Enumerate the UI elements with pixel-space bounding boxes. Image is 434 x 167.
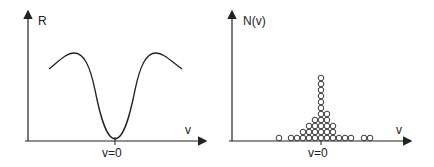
histogram-circle [330,129,336,135]
figure: R v v=0 N(v) v v=0 [0,0,434,167]
histogram-circle [318,111,324,117]
histogram-circle [288,135,294,141]
left-origin-label: v=0 [102,146,122,160]
histogram-circle [324,135,330,141]
histogram-circles [276,75,373,141]
histogram-circle [330,135,336,141]
right-y-label: N(v) [243,14,266,28]
histogram-circle [361,135,367,141]
histogram-circle [324,129,330,135]
histogram-circle [318,99,324,105]
histogram-circle [324,123,330,129]
histogram-circle [306,135,312,141]
histogram-circle [312,135,318,141]
histogram-circle [300,129,306,135]
right-x-label: v [396,123,402,137]
histogram-circle [342,135,348,141]
left-curve [49,53,182,139]
histogram-circle [318,93,324,99]
histogram-circle [312,117,318,123]
histogram-circle [294,135,300,141]
right-origin-label: v=0 [308,146,328,160]
histogram-circle [318,105,324,111]
right-plot: N(v) v v=0 [229,12,410,160]
histogram-circle [276,135,282,141]
histogram-circle [324,111,330,117]
histogram-circle [336,135,342,141]
histogram-circle [318,81,324,87]
histogram-circle [367,135,373,141]
histogram-circle [318,135,324,141]
histogram-circle [306,123,312,129]
left-plot: R v v=0 [25,12,205,160]
histogram-circle [306,129,312,135]
histogram-circle [300,135,306,141]
histogram-circle [312,123,318,129]
histogram-circle [348,135,354,141]
histogram-circle [318,129,324,135]
histogram-circle [324,117,330,123]
left-x-label: v [185,123,191,137]
histogram-circle [312,129,318,135]
histogram-circle [318,75,324,81]
histogram-circle [330,123,336,129]
histogram-circle [318,117,324,123]
histogram-circle [318,123,324,129]
histogram-circle [318,87,324,93]
left-y-label: R [38,14,47,28]
